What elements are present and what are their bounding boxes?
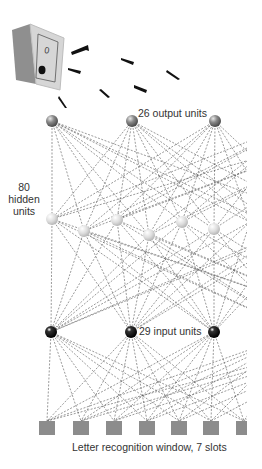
- neural-network-diagram: 0: [0, 0, 262, 469]
- hidden-unit: [46, 213, 58, 225]
- hidden-unit: [78, 225, 90, 237]
- hidden-word: hidden: [4, 193, 44, 205]
- window-label: Letter recognition window, 7 slots: [72, 441, 227, 453]
- input-unit: [45, 326, 57, 338]
- units-word: units: [4, 205, 44, 217]
- hidden-unit: [143, 229, 155, 241]
- units: [45, 115, 221, 338]
- input-unit: [125, 326, 137, 338]
- hidden-unit: [176, 216, 188, 228]
- hidden-layer-label: 80 hidden units: [4, 181, 44, 217]
- connections: [47, 121, 262, 421]
- hidden-unit: [111, 214, 123, 226]
- window-slot: [73, 421, 89, 435]
- window-slot: [203, 421, 219, 435]
- window-slot: [171, 421, 187, 435]
- window-slot: [236, 421, 247, 435]
- output-layer-label: 26 output units: [138, 107, 207, 119]
- output-unit: [209, 115, 221, 127]
- window-slot: [106, 421, 122, 435]
- window-slot: [39, 421, 55, 435]
- output-unit: [126, 115, 138, 127]
- input-window-slots: [39, 421, 247, 435]
- window-slot: [139, 421, 155, 435]
- input-unit: [208, 326, 220, 338]
- output-unit: [46, 115, 58, 127]
- input-layer-label: 29 input units: [139, 325, 201, 337]
- hidden-count: 80: [4, 181, 44, 193]
- hidden-unit: [208, 223, 220, 235]
- network-graph: [0, 0, 262, 469]
